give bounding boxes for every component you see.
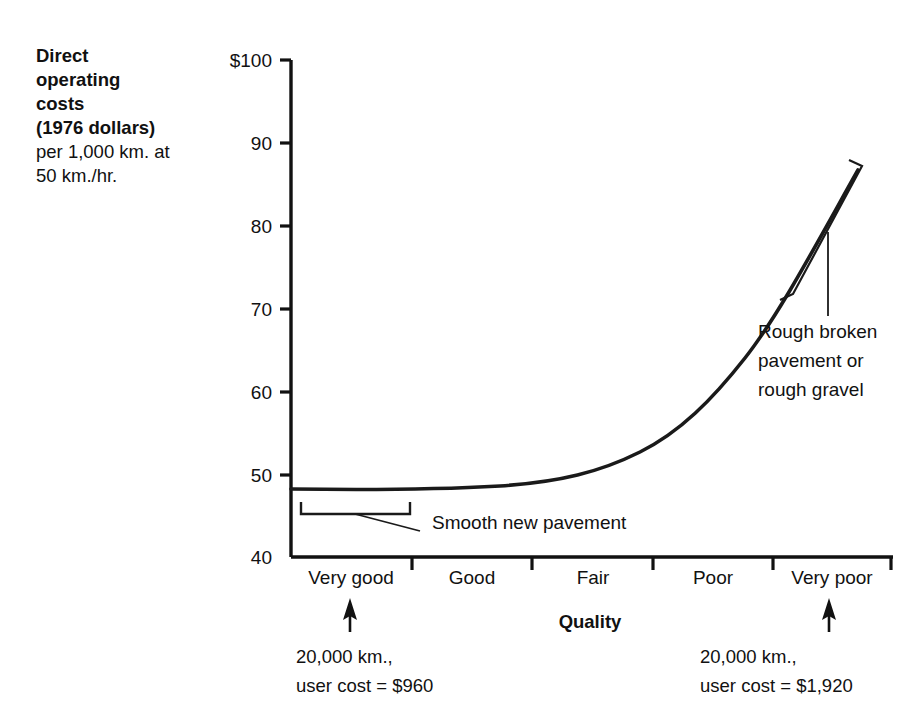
y-tick-label-80: 80 xyxy=(251,216,272,237)
right-up-arrow-icon xyxy=(822,598,836,632)
left-annotation-line-2: user cost = $960 xyxy=(296,675,433,696)
smooth-pavement-callout-label: Smooth new pavement xyxy=(432,512,627,533)
x-category-label-fair: Fair xyxy=(577,567,610,588)
operating-cost-chart: $100 90 80 70 60 50 40 Very good Good Fa… xyxy=(0,0,923,719)
right-annotation-line-2: user cost = $1,920 xyxy=(700,675,853,696)
x-category-label-good: Good xyxy=(449,567,495,588)
rough-pavement-callout-line-1: Rough broken xyxy=(758,321,877,342)
right-annotation-line-1: 20,000 km., xyxy=(700,646,797,667)
y-tick-label-100: $100 xyxy=(230,50,272,71)
x-axis-title: Quality xyxy=(559,611,622,632)
rough-pavement-callout-line-3: rough gravel xyxy=(758,379,864,400)
smooth-pavement-bracket xyxy=(301,502,410,514)
rough-pavement-callout-line-2: pavement or xyxy=(758,350,864,371)
x-category-label-very-good: Very good xyxy=(308,567,394,588)
x-category-label-very-poor: Very poor xyxy=(791,567,873,588)
smooth-pavement-leader-line xyxy=(355,514,420,531)
y-tick-label-70: 70 xyxy=(251,299,272,320)
y-tick-label-90: 90 xyxy=(251,133,272,154)
x-category-label-poor: Poor xyxy=(693,567,734,588)
rough-pavement-bracket xyxy=(780,160,862,300)
y-tick-label-50: 50 xyxy=(251,465,272,486)
left-annotation-line-1: 20,000 km., xyxy=(296,646,393,667)
y-tick-label-40: 40 xyxy=(251,547,272,568)
left-up-arrow-icon xyxy=(343,598,357,632)
y-tick-label-60: 60 xyxy=(251,382,272,403)
